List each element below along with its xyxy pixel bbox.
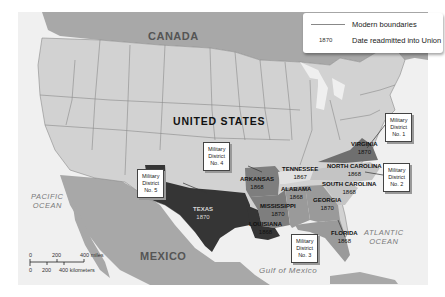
canada-label: CANADA xyxy=(148,30,199,42)
legend-date-sample: 1870 xyxy=(319,37,332,43)
military-district-1: MilitaryDistrictNo. 1 xyxy=(385,113,412,142)
legend-boundaries-label: Modern boundaries xyxy=(352,20,417,29)
map-legend: Modern boundaries 1870 Date readmitted i… xyxy=(303,13,443,53)
state-label-louisiana: LOUISIANA1868 xyxy=(249,220,282,236)
scale-km-0: 0 xyxy=(29,267,32,273)
boundary-line-swatch xyxy=(311,24,345,25)
state-label-florida: FLORIDA1868 xyxy=(331,229,358,245)
scale-miles-0: 0 xyxy=(29,252,32,258)
state-label-mississippi: MISSISSIPPI1870 xyxy=(260,202,296,218)
scale-km-400: 400 kilometers xyxy=(59,267,95,273)
scale-km-200: 200 xyxy=(42,267,51,273)
state-label-arkansas: ARKANSAS1868 xyxy=(240,175,274,191)
gulf-of-mexico-label: Gulf of Mexico xyxy=(259,266,317,275)
military-district-4: MilitaryDistrictNo. 4 xyxy=(203,142,230,171)
legend-date-label: Date readmitted into Union xyxy=(352,36,441,45)
united-states-label: UNITED STATES xyxy=(173,115,265,127)
military-district-5: MilitaryDistrictNo. 5 xyxy=(137,169,164,198)
atlantic-ocean-label: ATLANTICOCEAN xyxy=(364,228,404,246)
military-district-2: MilitaryDistrictNo. 2 xyxy=(383,163,410,192)
state-label-georgia: GEORGIA1870 xyxy=(313,196,341,212)
state-label-texas: TEXAS1870 xyxy=(193,205,213,221)
state-label-tennessee: TENNESSEE1867 xyxy=(282,165,318,181)
military-district-3: MilitaryDistrictNo. 3 xyxy=(291,234,318,263)
state-label-north-carolina: NORTH CAROLINA1868 xyxy=(327,162,382,178)
state-label-virginia: VIRGINIA1870 xyxy=(351,140,378,156)
scale-miles-400: 400 miles xyxy=(80,252,104,258)
state-label-alabama: ALABAMA1868 xyxy=(281,185,311,201)
state-label-south-carolina: SOUTH CAROLINA1868 xyxy=(322,180,376,196)
mexico-label: MEXICO xyxy=(140,250,186,262)
pacific-ocean-label: PACIFICOCEAN xyxy=(31,192,64,210)
scale-miles-200: 200 xyxy=(52,252,61,258)
